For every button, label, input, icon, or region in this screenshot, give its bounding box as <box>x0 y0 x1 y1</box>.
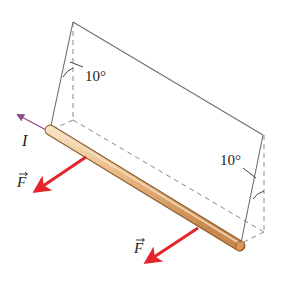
current-label: I <box>21 132 28 149</box>
force-arrow-right <box>151 228 198 259</box>
force-label-right-group: F <box>133 238 145 256</box>
angle-label-right: 10° <box>220 152 241 168</box>
current-arrow <box>18 115 48 131</box>
angle-label-left: 10° <box>85 68 106 84</box>
force-label-left-group: F <box>16 172 28 190</box>
dashed-base-diagonal-left <box>55 120 73 128</box>
dashed-base-line <box>73 120 264 232</box>
force-label-right: F <box>133 240 144 256</box>
diagram-svg: 10° 10° I F F <box>0 0 299 289</box>
force-arrow-left <box>40 157 86 188</box>
diagram-canvas: 10° 10° I F F <box>0 0 299 289</box>
plane-edge-right <box>241 135 263 243</box>
plane-edge-left <box>50 22 73 130</box>
dashed-base-diagonal-right <box>244 232 264 242</box>
force-label-left: F <box>16 174 27 190</box>
tilted-plane <box>50 22 263 243</box>
conducting-rod <box>50 128 246 253</box>
dashed-frame <box>55 22 264 242</box>
